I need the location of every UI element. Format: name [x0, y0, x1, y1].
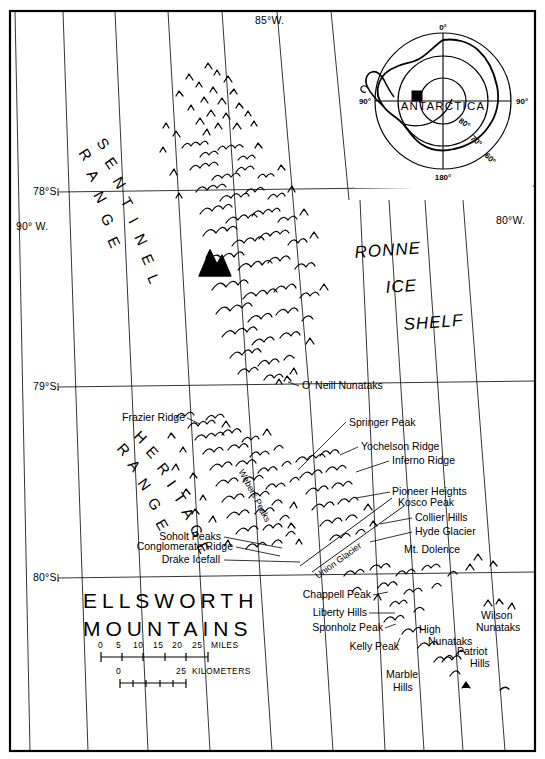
km-unit: KILOMETERS: [192, 666, 251, 676]
map-canvas: 85°W. 90° W. 80°W. 78°S. 79°S. 80°S.: [0, 0, 545, 759]
label-drake-icefall: Drake Icefall: [162, 553, 220, 565]
label-wilson-nunataks: Nunataks: [476, 621, 520, 633]
miles-tick-20: 20: [172, 640, 182, 650]
miles-tick-0: 0: [98, 640, 103, 650]
inset-label-0: 0°: [439, 23, 447, 32]
inset-continent-label: ANTARCTICA: [401, 100, 486, 112]
label-conglomerate-ridge: Conglomerate Ridge: [137, 540, 233, 552]
label-liberty-hills: Liberty Hills: [313, 606, 367, 618]
inset-label-180: 180°: [435, 173, 452, 182]
label-mt-dolence: Mt. Dolence: [404, 543, 460, 555]
inset-label-90-left: 90°: [359, 97, 371, 106]
ellsworth-mountains-map: 85°W. 90° W. 80°W. 78°S. 79°S. 80°S.: [0, 0, 545, 759]
map-title-line1: ELLSWORTH: [83, 589, 258, 612]
meridian-label-85W: 85°W.: [255, 14, 284, 26]
label-chappell-peak: Chappell Peak: [303, 588, 372, 600]
label-marble-hills: Hills: [393, 681, 413, 693]
label-patriot-hills: Hills: [470, 657, 490, 669]
parallel-label-79S: 79°S.: [33, 380, 60, 392]
label-collier-hills: Collier Hills: [415, 511, 468, 523]
label-springer-peak: Springer Peak: [349, 416, 416, 428]
label-sponholz-peak: Sponholz Peak: [312, 621, 383, 633]
label-patriot: Patriot: [457, 645, 487, 657]
antarctica-locator-inset: ANTARCTICA 0° 90° 90° 180° 80° 70° 60°: [355, 18, 533, 188]
label-kosco-peak: Kosco Peak: [398, 496, 455, 508]
miles-tick-25: 25: [192, 640, 202, 650]
km-tick-25: 25: [176, 666, 186, 676]
parallel-label-78S: 78°S.: [33, 185, 60, 197]
label-hyde-glacier: Hyde Glacier: [415, 525, 476, 537]
miles-tick-5: 5: [116, 640, 121, 650]
label-inferno-ridge: Inferno Ridge: [392, 454, 455, 466]
label-frazier-ridge: Frazier Ridge: [122, 411, 185, 423]
label-high: High: [419, 623, 441, 635]
km-tick-0: 0: [116, 666, 121, 676]
inset-label-90-right: 90°: [516, 97, 528, 106]
map-title-line2: MOUNTAINS: [83, 617, 252, 640]
meridian-label-90W: 90° W.: [16, 220, 48, 232]
miles-tick-15: 15: [153, 640, 163, 650]
label-marble: Marble: [386, 668, 418, 680]
label-wilson: Wilson: [481, 609, 513, 621]
label-yochelson-ridge: Yochelson Ridge: [361, 440, 440, 452]
label-oneill-nunataks: O' Neill Nunataks: [302, 379, 383, 391]
parallel-label-80S: 80°S.: [33, 571, 60, 583]
ronne-line2: ICE: [385, 276, 418, 297]
meridian-label-80W: 80°W.: [496, 214, 525, 226]
miles-tick-10: 10: [133, 640, 143, 650]
miles-unit: MILES: [211, 640, 239, 650]
label-kelly-peak: Kelly Peak: [349, 640, 399, 652]
